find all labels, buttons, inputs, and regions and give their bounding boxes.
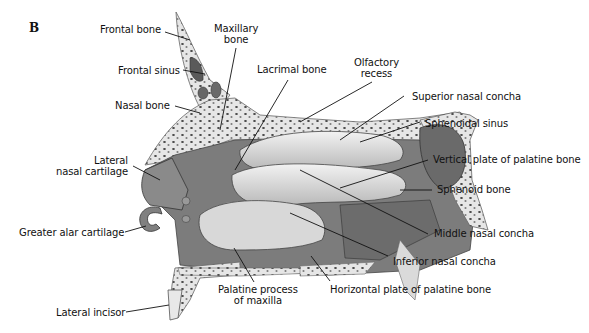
label-horizontal-plate-palatine: Horizontal plate of palatine bone [330,284,491,295]
label-inferior-nasal-concha: Inferior nasal concha [393,256,496,267]
label-maxillary-bone: Maxillary bone [214,23,258,45]
nasal-cavity-figure: B Frontal bone Maxillary bone Frontal si… [0,0,589,333]
label-frontal-bone: Frontal bone [100,24,161,35]
label-vertical-plate-palatine: Vertical plate of palatine bone [433,154,581,165]
label-lateral-incisor: Lateral incisor [56,307,125,318]
label-frontal-sinus: Frontal sinus [118,65,180,76]
label-sphenoid-bone: Sphenoid bone [437,184,511,195]
greater-alar-cartilage-shape [140,207,162,231]
label-palatine-process: Palatine process of maxilla [218,284,298,306]
label-superior-nasal-concha: Superior nasal concha [412,91,521,102]
label-olfactory-recess: Olfactory recess [354,57,399,79]
panel-letter: B [29,21,39,35]
label-lacrimal-bone: Lacrimal bone [257,64,327,75]
label-nasal-bone: Nasal bone [115,100,170,111]
label-middle-nasal-concha: Middle nasal concha [434,228,534,239]
inferior-concha-shape [199,201,325,250]
label-lateral-nasal-cartilage: Lateral nasal cartilage [55,155,128,177]
label-greater-alar-cartilage: Greater alar cartilage [19,227,124,238]
label-sphenoidal-sinus: Sphenoidal sinus [425,118,508,129]
